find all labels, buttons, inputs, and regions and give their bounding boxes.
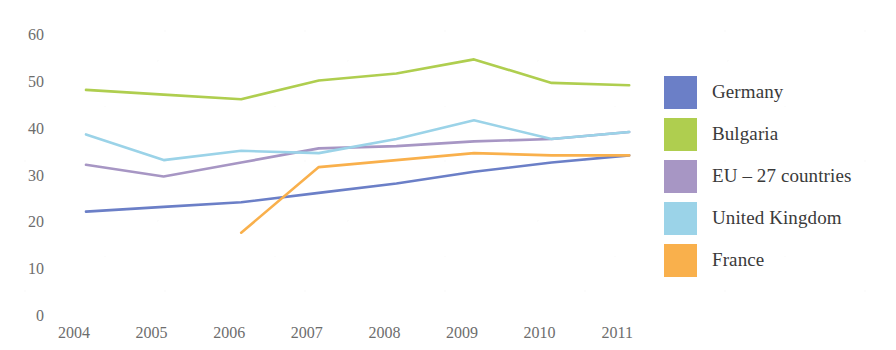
legend-swatch-icon — [664, 202, 697, 235]
line-chart-figure: 0102030405060 20042005200620072008200920… — [0, 0, 896, 350]
x-tick-label-2011: 2011 — [586, 324, 648, 342]
series-line-france — [241, 153, 629, 233]
x-tick-label-2010: 2010 — [509, 324, 571, 342]
y-tick-label-0: 0 — [2, 307, 44, 325]
x-tick-label-2009: 2009 — [431, 324, 493, 342]
y-tick-label-50: 50 — [2, 73, 44, 91]
legend-item-label: EU – 27 countries — [712, 165, 851, 187]
legend-item-label: France — [712, 249, 764, 271]
legend-item-label: Germany — [712, 81, 783, 103]
y-tick-label-20: 20 — [2, 213, 44, 231]
chart-legend: GermanyBulgariaEU – 27 countriesUnited K… — [664, 71, 896, 281]
legend-item-bulgaria[interactable]: Bulgaria — [664, 113, 896, 155]
legend-item-label: Bulgaria — [712, 123, 778, 145]
legend-swatch-icon — [664, 76, 697, 109]
plot-lines-svg — [0, 0, 660, 350]
legend-item-france[interactable]: France — [664, 239, 896, 281]
legend-item-united-kingdom[interactable]: United Kingdom — [664, 197, 896, 239]
y-tick-label-30: 30 — [2, 167, 44, 185]
x-tick-label-2007: 2007 — [276, 324, 338, 342]
y-tick-label-40: 40 — [2, 120, 44, 138]
legend-item-label: United Kingdom — [712, 207, 842, 229]
y-tick-label-10: 10 — [2, 260, 44, 278]
legend-swatch-icon — [664, 118, 697, 151]
legend-item-germany[interactable]: Germany — [664, 71, 896, 113]
legend-swatch-icon — [664, 244, 697, 277]
plot-area: 0102030405060 20042005200620072008200920… — [0, 0, 660, 350]
x-tick-label-2005: 2005 — [121, 324, 183, 342]
legend-swatch-icon — [664, 160, 697, 193]
series-line-bulgaria — [86, 59, 629, 99]
x-tick-label-2004: 2004 — [43, 324, 105, 342]
x-tick-label-2008: 2008 — [353, 324, 415, 342]
y-tick-label-60: 60 — [2, 26, 44, 44]
x-tick-label-2006: 2006 — [198, 324, 260, 342]
legend-item-eu-27-countries[interactable]: EU – 27 countries — [664, 155, 896, 197]
